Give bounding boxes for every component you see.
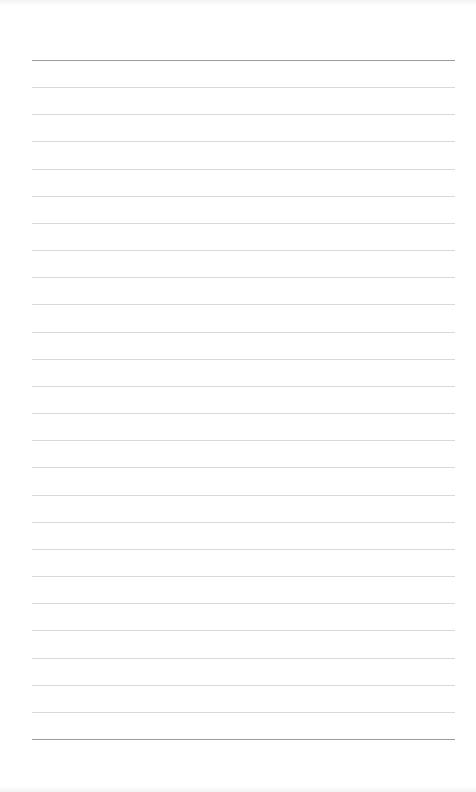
ruled-line (32, 223, 455, 224)
ruled-line (32, 277, 455, 278)
ruled-line (32, 440, 455, 441)
page-bottom-edge (0, 786, 476, 792)
ruled-line (32, 250, 455, 251)
ruled-line-edge (32, 60, 455, 61)
ruled-line (32, 576, 455, 577)
ruled-line (32, 603, 455, 604)
ruled-line (32, 332, 455, 333)
ruled-line (32, 386, 455, 387)
ruled-line (32, 169, 455, 170)
ruled-line (32, 196, 455, 197)
ruled-line (32, 114, 455, 115)
ruled-lines (32, 0, 455, 792)
ruled-line (32, 685, 455, 686)
ruled-line (32, 522, 455, 523)
ruled-line-edge (32, 739, 455, 740)
ruled-line (32, 87, 455, 88)
ruled-line (32, 413, 455, 414)
ruled-line (32, 467, 455, 468)
ruled-line (32, 549, 455, 550)
ruled-line (32, 630, 455, 631)
ruled-line (32, 658, 455, 659)
ruled-line (32, 712, 455, 713)
ruled-line (32, 141, 455, 142)
ruled-line (32, 359, 455, 360)
ruled-line (32, 304, 455, 305)
ruled-line (32, 495, 455, 496)
